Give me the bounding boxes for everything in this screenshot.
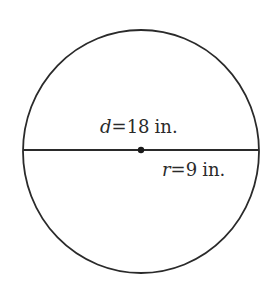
diameter-label: d=18in. [100,116,178,137]
center-point [138,147,144,153]
circle-diagram: d=18in. r=9in. [0,0,278,284]
radius-label: r=9in. [162,159,225,180]
